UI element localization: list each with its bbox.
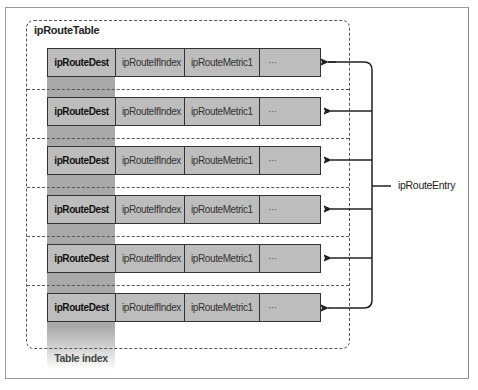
entry-bracket-arrows bbox=[0, 0, 478, 390]
route-entry-label: ipRouteEntry bbox=[398, 179, 455, 191]
